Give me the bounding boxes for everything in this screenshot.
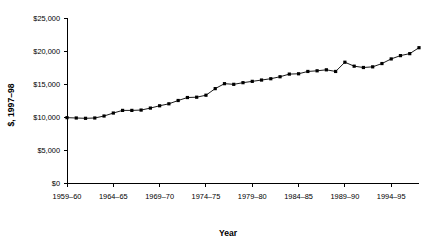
y-tick-label: $5,000 [37,146,60,155]
line-chart: $0$5,000$10,000$15,000$20,000$25,000 195… [0,0,424,247]
x-tick-label: 1969–70 [145,192,174,201]
x-tick-label: 1974–75 [192,192,221,201]
series-point [251,80,254,83]
series-point [130,109,133,112]
series-point [362,66,365,69]
series-point [84,117,87,120]
series-point [278,75,281,78]
series-point [316,69,319,72]
x-tick-label: 1984–85 [284,192,313,201]
series-point [288,73,291,76]
series-point [186,96,189,99]
series-point [408,52,411,55]
series-point [297,72,300,75]
series-point [167,102,170,105]
series-point [306,70,309,73]
y-tick-label: $15,000 [33,80,60,89]
x-tick-label: 1994–95 [377,192,406,201]
series-point [371,65,374,68]
series-point [140,108,143,111]
series-point [149,106,152,109]
y-tick-label: $20,000 [33,47,60,56]
series-point [353,65,356,68]
y-tick-label: $0 [52,179,60,188]
x-axis: 1959–601964–651969–701974–751979–801984–… [53,183,419,201]
series-point [177,99,180,102]
chart-figure: $0$5,000$10,000$15,000$20,000$25,000 195… [0,0,424,247]
series-point [417,46,420,49]
y-tick-label: $25,000 [33,14,60,23]
series-point [343,61,346,64]
x-tick-label: 1979–80 [238,192,267,201]
series-point [121,109,124,112]
series-point [223,82,226,85]
series-point [75,116,78,119]
y-axis-title: $, 1997–98 [6,83,16,126]
series-point [214,87,217,90]
series-point [390,57,393,60]
x-axis-title: Year [219,228,238,238]
series-point [260,78,263,81]
y-tick-label: $10,000 [33,113,60,122]
series-point [325,68,328,71]
series-point [65,116,68,119]
series-point [204,94,207,97]
y-axis: $0$5,000$10,000$15,000$20,000$25,000 [33,14,67,188]
series-point [112,111,115,114]
x-tick-label: 1964–65 [99,192,128,201]
series-point [158,104,161,107]
series-point [241,81,244,84]
series-point [399,54,402,57]
series-point [93,116,96,119]
data-series [65,46,420,120]
x-tick-label: 1989–90 [331,192,360,201]
series-point [334,70,337,73]
series-point [232,83,235,86]
series-point [195,96,198,99]
series-point [102,114,105,117]
series-point [380,62,383,65]
x-tick-label: 1959–60 [53,192,82,201]
series-point [269,77,272,80]
